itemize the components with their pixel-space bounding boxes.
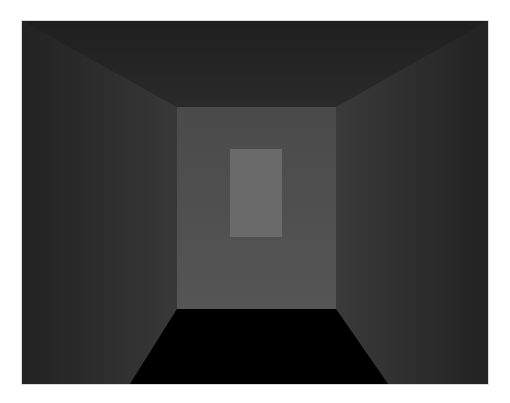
back-panel <box>230 149 282 237</box>
corridor-scene <box>22 21 488 384</box>
game-viewport[interactable] <box>22 21 488 384</box>
